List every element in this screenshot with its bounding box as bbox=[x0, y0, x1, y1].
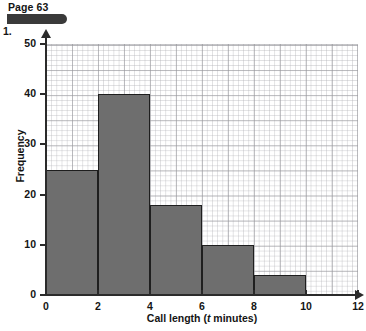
x-axis-tick bbox=[201, 290, 203, 296]
y-axis-tick-label: 0 bbox=[8, 288, 36, 300]
x-axis-tick-label: 4 bbox=[135, 300, 165, 312]
y-axis-title: Frequency bbox=[14, 101, 26, 211]
x-axis-tick-label: 2 bbox=[83, 300, 113, 312]
x-axis-tick-label: 0 bbox=[31, 300, 61, 312]
y-axis-tick bbox=[40, 244, 46, 246]
histogram-bar bbox=[98, 94, 150, 295]
histogram-bar bbox=[150, 205, 202, 295]
histogram-bar bbox=[202, 245, 254, 295]
y-axis-tick bbox=[40, 194, 46, 196]
x-axis-tick bbox=[97, 290, 99, 296]
x-axis-title: Call length (t minutes) bbox=[46, 312, 358, 324]
y-axis-tick-label: 50 bbox=[8, 37, 36, 49]
x-axis-tick-label: 10 bbox=[291, 300, 321, 312]
x-axis-tick-label: 6 bbox=[187, 300, 217, 312]
x-axis-tick-label: 12 bbox=[343, 300, 366, 312]
x-axis-tick bbox=[305, 290, 307, 296]
x-axis-tick bbox=[45, 290, 47, 296]
y-axis-tick bbox=[40, 93, 46, 95]
x-axis-tick-label: 8 bbox=[239, 300, 269, 312]
x-axis-tick bbox=[357, 290, 359, 296]
x-axis-tick bbox=[149, 290, 151, 296]
histogram-bar bbox=[46, 170, 98, 296]
x-axis-variable: t bbox=[207, 312, 211, 324]
y-axis-tick-label: 40 bbox=[8, 87, 36, 99]
x-axis-tick bbox=[253, 290, 255, 296]
y-axis-line bbox=[45, 36, 47, 296]
y-axis-tick bbox=[40, 43, 46, 45]
histogram-chart: 01020304050 024681012 Call length (t min… bbox=[0, 0, 366, 331]
y-axis-arrow-icon bbox=[41, 29, 51, 38]
histogram-bar bbox=[254, 275, 306, 295]
y-axis-tick-label: 10 bbox=[8, 238, 36, 250]
y-axis-tick bbox=[40, 143, 46, 145]
